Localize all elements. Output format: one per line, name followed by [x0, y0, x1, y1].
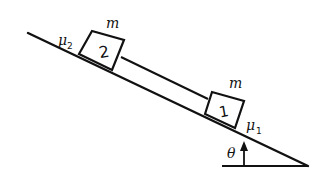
- svg-text:μ: μ: [246, 117, 255, 133]
- svg-text:μ: μ: [58, 32, 67, 48]
- block-1: 1 m μ 1: [205, 75, 262, 136]
- angle-label: θ: [227, 145, 236, 161]
- incline-surface: [28, 33, 308, 166]
- arrow-up-icon: [240, 141, 248, 151]
- block-1-friction-label: μ 1: [246, 117, 262, 136]
- incline-diagram: 2 m μ 2 1 m μ 1 θ: [0, 0, 322, 178]
- block-1-mass-label: m: [229, 75, 242, 91]
- svg-text:1: 1: [256, 126, 262, 136]
- block-2-mass-label: m: [106, 15, 119, 31]
- angle-indicator: θ: [227, 141, 248, 166]
- svg-text:2: 2: [67, 41, 73, 51]
- connecting-rod: [121, 57, 208, 99]
